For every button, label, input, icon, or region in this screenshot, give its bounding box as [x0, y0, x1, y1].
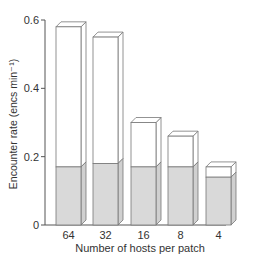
bar-total: [131, 123, 156, 167]
bar-side-shaded: [193, 162, 198, 225]
y-tick-label: 0.4: [24, 82, 39, 94]
bar-total: [93, 37, 118, 163]
bar-shaded: [131, 167, 156, 225]
bar-top: [93, 32, 123, 37]
x-tick-label: 16: [137, 229, 149, 241]
x-tick-label: 32: [99, 229, 111, 241]
x-tick-label: 8: [177, 229, 183, 241]
bar-side-shaded: [118, 159, 123, 226]
x-tick-label: 64: [62, 229, 74, 241]
bar-side: [193, 131, 198, 167]
bar-top: [56, 22, 86, 27]
bar-shaded: [93, 164, 118, 226]
bar-side: [156, 118, 161, 167]
bar-chart-svg: 00.20.40.664321684: [0, 0, 255, 263]
y-axis-label: Encounter rate (encs min⁻¹): [7, 49, 19, 199]
x-tick-label: 4: [215, 229, 221, 241]
bar-side-shaded: [231, 172, 236, 225]
bar-shaded: [206, 177, 231, 225]
bar-total: [206, 167, 231, 177]
bar-side-shaded: [156, 162, 161, 225]
bar-side: [81, 22, 86, 167]
x-axis-label: Number of hosts per patch: [50, 242, 230, 254]
y-tick-label: 0: [33, 219, 39, 231]
bar-shaded: [168, 167, 193, 225]
y-tick-label: 0.2: [24, 151, 39, 163]
bar-top: [168, 131, 198, 136]
bar-shaded: [56, 167, 81, 225]
bar-total: [168, 136, 193, 167]
bar-side: [118, 32, 123, 163]
y-tick-label: 0.6: [24, 14, 39, 26]
bar-total: [56, 27, 81, 167]
bar-top: [206, 162, 236, 167]
bar-side-shaded: [81, 162, 86, 225]
bar-top: [131, 118, 161, 123]
